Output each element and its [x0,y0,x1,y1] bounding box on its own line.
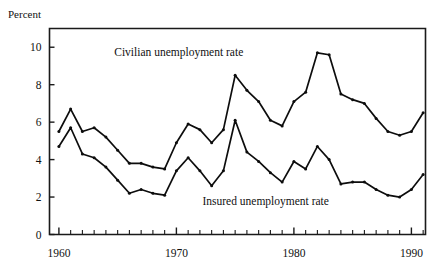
x-tick-label: 1970 [165,247,188,259]
y-tick-label: 0 [36,229,42,241]
data-point [81,152,84,155]
data-point [304,91,307,94]
data-point [163,167,166,170]
data-point [69,108,72,111]
data-point [187,123,190,126]
data-point [175,169,178,172]
data-point [57,130,60,133]
data-point [69,126,72,129]
unemployment-rate-chart-figure: 0246810 1960197019801990 Percent Civilia… [0,0,437,274]
data-point [363,181,366,184]
x-tick-label: 1990 [400,247,423,259]
data-point [93,156,96,159]
data-point [304,167,307,170]
data-point [198,169,201,172]
y-tick-label: 10 [30,41,42,53]
y-tick-label: 8 [36,79,42,91]
data-point [234,119,237,122]
data-point [140,162,143,165]
data-point [151,166,154,169]
data-point [128,192,131,195]
data-point [422,111,425,114]
data-point [257,160,260,163]
data-point [175,141,178,144]
data-point [210,184,213,187]
y-axis-tick-labels: 0246810 [30,41,42,240]
data-point [410,188,413,191]
data-point [398,134,401,137]
data-point [281,181,284,184]
data-point [210,141,213,144]
data-point [316,51,319,54]
y-tick-label: 6 [36,116,42,128]
data-point [163,194,166,197]
data-series-group [57,51,424,198]
data-point [116,149,119,152]
data-point [151,192,154,195]
x-tick-label: 1980 [282,247,305,259]
data-point [339,93,342,96]
data-point [187,156,190,159]
data-point [351,98,354,101]
data-point [316,145,319,148]
data-point [339,182,342,185]
data-point [140,188,143,191]
data-point [57,145,60,148]
data-point [292,160,295,163]
data-point [116,179,119,182]
series-annotations-group: Civilian unemployment rateInsured unempl… [114,46,329,209]
x-tick-label: 1960 [47,247,70,259]
data-point [351,181,354,184]
data-point [363,102,366,105]
data-point [375,188,378,191]
data-point [269,171,272,174]
data-point [422,173,425,176]
data-point [245,151,248,154]
data-point [292,100,295,103]
data-point [386,194,389,197]
civilian-series-label: Civilian unemployment rate [114,46,243,59]
series-civilian [57,51,424,170]
data-point [328,53,331,56]
series-line [59,120,423,197]
x-axis-tick-group [59,228,423,235]
insured-series-label: Insured unemployment rate [202,195,328,208]
data-point [104,166,107,169]
series-insured [57,119,424,199]
data-point [398,196,401,199]
data-point [269,119,272,122]
data-point [198,128,201,131]
data-point [328,158,331,161]
series-line [59,53,423,169]
data-point [128,162,131,165]
data-point [234,74,237,77]
x-axis-tick-labels: 1960197019801990 [47,247,423,259]
y-axis-title: Percent [8,8,41,20]
data-point [222,169,225,172]
data-point [281,124,284,127]
chart-canvas: 0246810 1960197019801990 Percent Civilia… [0,0,437,274]
data-point [104,136,107,139]
data-point [257,100,260,103]
data-point [222,128,225,131]
data-point [81,130,84,133]
y-tick-label: 4 [36,154,42,166]
y-tick-label: 2 [36,191,42,203]
data-point [386,130,389,133]
data-point [410,130,413,133]
data-point [375,117,378,120]
data-point [93,126,96,129]
data-point [245,89,248,92]
